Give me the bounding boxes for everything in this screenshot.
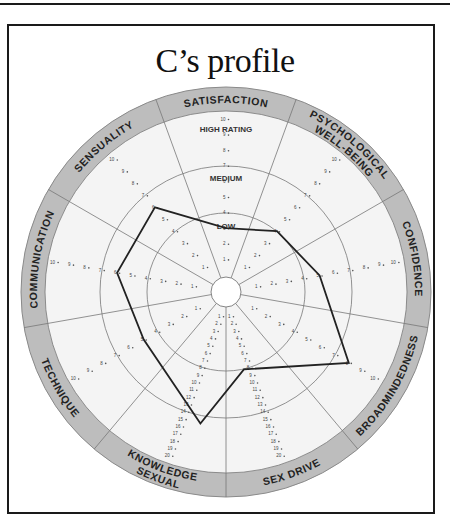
tick-dot [228, 259, 230, 261]
tick-dot [337, 272, 339, 274]
tick-dot [243, 345, 245, 347]
tick-label: 20 [165, 453, 171, 458]
tick-dot [119, 272, 121, 274]
tick-label: 17 [173, 431, 179, 436]
tick-dot [116, 159, 118, 161]
tick-dot [257, 382, 259, 384]
tick-label: 10 [109, 157, 115, 162]
tick-dot [185, 419, 187, 421]
zone-label: HIGH RATING [200, 125, 252, 134]
tick-dot [88, 267, 90, 269]
tick-label: 14 [181, 409, 187, 414]
tick-dot [299, 207, 301, 209]
tick-dot [269, 316, 271, 318]
tick-dot [191, 404, 193, 406]
tick-dot [310, 339, 312, 341]
tick-label: 10 [391, 260, 397, 265]
tick-label: 10 [332, 157, 338, 162]
tick-dot [201, 375, 203, 377]
tick-dot [278, 441, 280, 443]
tick-dot [228, 212, 230, 214]
tick-dot [238, 331, 240, 333]
tick-label: 19 [167, 446, 173, 451]
tick-dot [137, 183, 139, 185]
tick-dot [246, 353, 248, 355]
tick-dot [339, 159, 341, 161]
tick-dot [180, 283, 182, 285]
tick-dot [196, 389, 198, 391]
tick-dot [78, 378, 80, 380]
tick-dot [228, 197, 230, 199]
tick-dot [275, 283, 277, 285]
tick-dot [233, 316, 235, 318]
tick-dot [193, 397, 195, 399]
tick-dot [105, 363, 107, 365]
tick-dot [283, 324, 285, 326]
tick-dot [215, 338, 217, 340]
tick-dot [167, 219, 169, 221]
tick-label: 11 [189, 387, 194, 392]
tick-dot [228, 244, 230, 246]
tick-label: 10 [191, 380, 197, 385]
tick-dot [228, 166, 230, 168]
tick-dot [177, 441, 179, 443]
tick-label: 16 [266, 424, 272, 429]
tick-dot [172, 324, 174, 326]
tick-dot [249, 267, 251, 269]
tick-dot [175, 448, 177, 450]
tick-dot [270, 419, 272, 421]
tick-dot [73, 264, 75, 266]
tick-dot [197, 255, 199, 257]
tick-dot [57, 262, 59, 264]
tick-dot [188, 411, 190, 413]
tick-dot [337, 355, 339, 357]
tick-dot [249, 360, 251, 362]
tick-dot [321, 275, 323, 277]
tick-dot [187, 243, 189, 245]
tick-dot [256, 308, 258, 310]
tick-dot [199, 382, 201, 384]
tick-dot [254, 375, 256, 377]
zone-label: MEDIUM [210, 174, 243, 183]
tick-dot [235, 323, 237, 325]
tick-dot [262, 397, 264, 399]
tick-dot [145, 339, 147, 341]
tick-dot [207, 360, 209, 362]
tick-dot [204, 367, 206, 369]
tick-label: 12 [186, 395, 192, 400]
tick-dot [267, 411, 269, 413]
radar-chart: 1234567891012345678910123456789101234567… [0, 0, 450, 526]
tick-dot [269, 243, 271, 245]
tick-label: 19 [274, 446, 280, 451]
tick-dot [329, 171, 331, 173]
tick-dot [306, 278, 308, 280]
tick-label: 15 [263, 417, 269, 422]
tick-label: 18 [271, 439, 277, 444]
tick-dot [132, 347, 134, 349]
tick-dot [228, 150, 230, 152]
tick-dot [309, 195, 311, 197]
tick-dot [217, 331, 219, 333]
tick-dot [281, 448, 283, 450]
tick-dot [291, 281, 293, 283]
tick-dot [220, 323, 222, 325]
tick-dot [351, 363, 353, 365]
tick-dot [275, 433, 277, 435]
tick-label: 17 [268, 431, 274, 436]
tick-dot [378, 378, 380, 380]
tick-label: 15 [178, 417, 184, 422]
center-circle [211, 277, 241, 307]
tick-dot [289, 219, 291, 221]
tick-dot [91, 370, 93, 372]
tick-label: 13 [258, 402, 264, 407]
tick-dot [241, 338, 243, 340]
tick-label: 10 [250, 380, 256, 385]
tick-label: 11 [253, 387, 258, 392]
tick-label: 10 [71, 376, 77, 381]
tick-dot [223, 316, 225, 318]
tick-dot [159, 331, 161, 333]
tick-dot [323, 347, 325, 349]
tick-dot [383, 264, 385, 266]
tick-dot [212, 345, 214, 347]
tick-dot [150, 278, 152, 280]
